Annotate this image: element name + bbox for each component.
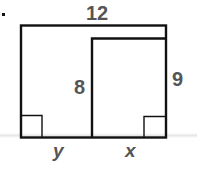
right-angle-mark-left (21, 116, 42, 138)
label-top-length: 12 (86, 2, 108, 25)
label-right-side: 9 (172, 68, 183, 91)
label-segment-y: y (53, 140, 64, 162)
right-angle-mark-right (144, 117, 166, 138)
inner-rectangle (92, 39, 166, 138)
geometry-figure (0, 0, 197, 176)
label-segment-x: x (125, 140, 136, 162)
bullet-dot (2, 13, 5, 16)
label-inner-height: 8 (74, 76, 85, 99)
